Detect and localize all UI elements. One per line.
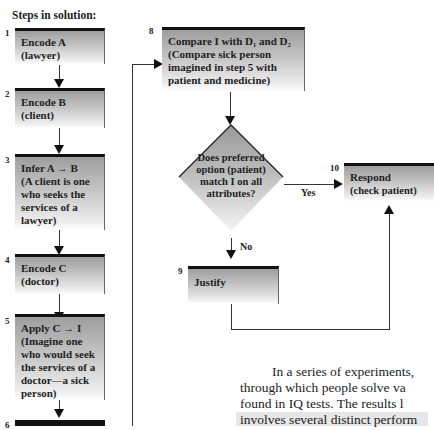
connector-9-bottom: [231, 329, 390, 330]
step-box-2: Encode B (client): [15, 88, 105, 128]
body-text-line-4: involves several distinct perform: [240, 412, 417, 428]
step-title-4: Encode C: [21, 262, 67, 274]
step-number-6: 6: [5, 420, 10, 430]
connector-4-5: [59, 294, 60, 314]
step-detail-8: (Compare sick person imagined in step 5 …: [168, 48, 298, 87]
yes-connector-tail: [318, 184, 335, 185]
step-title-5: Apply C → I: [21, 322, 81, 334]
body-text-line-3: found in IQ tests. The results l: [240, 396, 404, 412]
step-title-8: Compare I with D₁ and D₂: [168, 35, 291, 47]
step-title-3: Infer A → B: [21, 162, 78, 174]
step-number-3: 3: [5, 155, 10, 165]
arrow-down-icon: [54, 409, 64, 418]
step-number-8: 8: [149, 26, 154, 36]
connector-1-2: [59, 65, 60, 79]
step-box-8: Compare I with D₁ and D₂ (Compare sick p…: [162, 27, 305, 91]
step-title-2: Encode B: [21, 96, 66, 108]
step-number-5: 5: [5, 316, 10, 326]
no-label: No: [240, 241, 252, 252]
step-detail-4: (doctor): [21, 275, 98, 288]
step-box-3: Infer A → B (A client is one who seeks t…: [15, 154, 105, 230]
body-text-line-1: In a series of experiments,: [272, 364, 414, 380]
connector-9-up: [389, 213, 390, 330]
step-title-9: Justify: [194, 276, 226, 288]
yes-connector: [284, 184, 319, 185]
yes-label: Yes: [301, 187, 315, 198]
connector-3-4: [59, 230, 60, 246]
step-detail-1: (lawyer): [21, 49, 98, 62]
step-box-1: Encode A (lawyer): [15, 28, 105, 64]
step-detail-3: (A client is one who seeks the services …: [21, 175, 98, 227]
arrow-down-icon: [54, 145, 64, 154]
loop-back-horizontal: [132, 64, 154, 65]
step-number-9: 9: [178, 266, 183, 276]
step-box-6: [15, 420, 105, 426]
decision-text: Does preferred option (patient) match I …: [188, 152, 274, 200]
step-box-5: Apply C → I (Imagine one who would seek …: [15, 314, 105, 400]
step-number-4: 4: [5, 255, 10, 265]
step-box-4: Encode C (doctor): [15, 254, 105, 294]
step-title-10: Respond: [350, 171, 391, 183]
step-box-10: Respond (check patient): [344, 163, 434, 201]
step-number-1: 1: [5, 28, 10, 38]
connector-9-down: [231, 304, 232, 329]
step-number-10: 10: [330, 163, 339, 173]
arrow-down-icon: [54, 79, 64, 88]
body-text-line-2: through which people solve va: [240, 380, 406, 396]
arrow-up-icon: [384, 205, 394, 214]
loop-back-connector: [132, 64, 133, 426]
step-box-9: Justify: [188, 266, 279, 304]
step-detail-5: (Imagine one who would seek the services…: [21, 335, 98, 400]
step-detail-10: (check patient): [350, 184, 428, 197]
connector-2-3: [59, 128, 60, 145]
step-title-1: Encode A: [21, 36, 66, 48]
steps-heading: Steps in solution:: [12, 9, 96, 21]
step-number-2: 2: [5, 89, 10, 99]
arrow-right-icon: [334, 179, 343, 189]
arrow-down-icon: [226, 250, 236, 259]
step-detail-2: (client): [21, 109, 98, 122]
